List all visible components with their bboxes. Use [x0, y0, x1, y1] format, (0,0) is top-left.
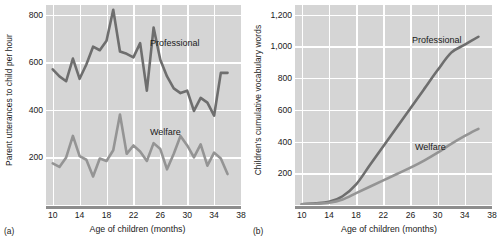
y-tick-label: 1,000	[250, 41, 292, 51]
x-tick-label: 26	[147, 209, 173, 221]
y-tick-label: 800	[250, 73, 292, 83]
panel-b-x-axis-title: Age of children (months)	[279, 224, 499, 234]
x-tick-label: 14	[67, 209, 93, 221]
x-tick-label: 22	[370, 209, 396, 221]
panel-a-tag: (a)	[4, 226, 14, 236]
x-tick-label: 10	[289, 209, 315, 221]
y-tick-label: 200	[1, 152, 43, 162]
panel-a-welfare-label: Welfare	[150, 127, 181, 137]
figure-two-panel-chart: Parent utterances to child per hour 2004…	[0, 0, 499, 250]
x-tick-label: 22	[120, 209, 146, 221]
panel-b-plot-area: Professional Welfare	[295, 5, 492, 205]
x-tick-label: 34	[201, 209, 227, 221]
x-tick-label: 10	[40, 209, 66, 221]
panel-b-y-tick-labels: 2004006008001,0001,200	[249, 5, 292, 205]
panel-a-professional-label: Professional	[150, 38, 200, 48]
x-tick-label: 30	[174, 209, 200, 221]
x-tick-label: 30	[425, 209, 451, 221]
panel-a-welfare-line	[53, 115, 228, 177]
panel-b-series-svg	[295, 5, 492, 205]
panel-b-professional-label: Professional	[412, 35, 462, 45]
y-tick-label: 600	[250, 105, 292, 115]
x-tick-label: 14	[316, 209, 342, 221]
panel-b-tag: (b)	[253, 226, 263, 236]
y-tick-label: 400	[1, 105, 43, 115]
panel-b: Children's cumulative vocabulary words 2…	[249, 0, 499, 250]
panel-a-x-axis-title: Age of children (months)	[30, 224, 245, 234]
panel-a-x-tick-labels: 1014182226303438	[46, 209, 241, 223]
panel-b-x-tick-labels: 1014182226303438	[295, 209, 492, 223]
panel-b-welfare-label: Welfare	[415, 142, 446, 152]
panel-a-series-svg	[46, 5, 241, 205]
panel-a: Parent utterances to child per hour 2004…	[0, 0, 249, 250]
x-tick-label: 38	[479, 209, 499, 221]
panel-a-professional-line	[53, 10, 228, 116]
x-tick-label: 26	[397, 209, 423, 221]
panel-a-y-tick-labels: 200400600800	[0, 5, 43, 205]
y-tick-label: 400	[250, 137, 292, 147]
x-tick-label: 34	[452, 209, 478, 221]
panel-b-welfare-line	[302, 129, 479, 204]
panel-b-professional-line	[302, 37, 479, 204]
panel-a-plot-area: Professional Welfare	[46, 5, 241, 205]
x-tick-label: 18	[343, 209, 369, 221]
x-tick-label: 18	[94, 209, 120, 221]
y-tick-label: 800	[1, 10, 43, 20]
y-tick-label: 1,200	[250, 10, 292, 20]
y-tick-label: 600	[1, 57, 43, 67]
y-tick-label: 200	[250, 168, 292, 178]
